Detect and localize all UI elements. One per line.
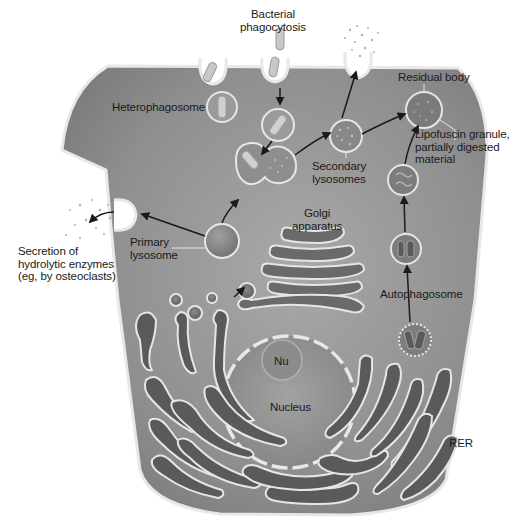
- label-secretion-hydrolytic-enzymes: Secretion of hydrolytic enzymes (eg, by …: [18, 245, 116, 283]
- label-golgi-apparatus: Golgi apparatus: [292, 207, 342, 232]
- label-heterophagosome: Heterophagosome: [112, 101, 205, 114]
- autophagolysosome-middle: [391, 234, 421, 264]
- label-nucleolus: Nu: [274, 355, 289, 368]
- label-residual-body: Residual body: [398, 71, 470, 84]
- autophagolysosome-upper: [388, 165, 418, 195]
- heterophagosome: [207, 92, 237, 122]
- label-primary-lysosome: Primary lysosome: [130, 236, 178, 261]
- label-bacterial-phagocytosis: Bacterial phagocytosis: [240, 8, 306, 33]
- label-autophagosome: Autophagosome: [380, 288, 462, 301]
- label-rer: RER: [449, 437, 473, 450]
- label-secondary-lysosomes: Secondary lysosomes: [312, 160, 366, 185]
- lysosome-diagram: Bacterial phagocytosis Heterophagosome R…: [0, 0, 519, 529]
- phagosome-2: [262, 109, 294, 141]
- label-lipofuscin-granule: Lipofuscin granule, partially digested m…: [415, 128, 510, 166]
- autophagosome: [399, 324, 431, 356]
- label-nucleus: Nucleus: [270, 401, 311, 414]
